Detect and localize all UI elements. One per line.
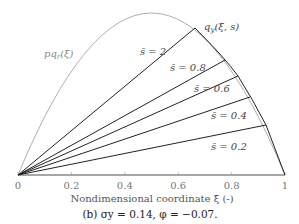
label-s04: s̄ = 0.4 [211, 110, 247, 121]
envelope-curve [195, 28, 285, 175]
label-s2: s̄ = 2 [140, 46, 166, 57]
label-s08: s̄ = 0.8 [170, 62, 206, 73]
label-s06: s̄ = 0.6 [194, 83, 230, 94]
x-ticks [18, 172, 285, 175]
ray-s08 [18, 60, 225, 175]
tick-1: 1 [282, 180, 288, 191]
chart: pqr(ξ) qy(ξ, s) s̄ = 2 s̄ = 0.8 s̄ = 0.6… [0, 0, 299, 224]
tick-0.2: 0.2 [63, 180, 79, 191]
label-s02: s̄ = 0.2 [211, 141, 247, 152]
tick-0.8: 0.8 [224, 180, 240, 191]
tick-0: 0 [15, 180, 21, 191]
tick-0.6: 0.6 [170, 180, 186, 191]
figure-caption: (b) σy = 0.14, φ = −0.07. [82, 208, 217, 220]
envelope-label: qy(ξ, s) [204, 21, 239, 34]
parabola-label: pqr(ξ) [44, 48, 74, 61]
ray-s04 [18, 97, 250, 175]
tick-0.4: 0.4 [117, 180, 133, 191]
x-axis-label: Nondimensional coordinate ξ̄ (-) [70, 193, 233, 204]
